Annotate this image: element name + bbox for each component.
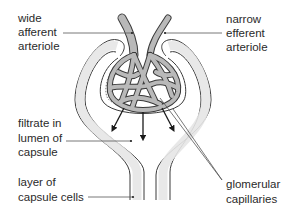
svg-text:capillaries: capillaries — [226, 193, 277, 205]
svg-text:arteriole: arteriole — [226, 41, 268, 53]
nephron-diagram: wide afferent arteriole narrow efferent … — [0, 0, 289, 215]
svg-text:narrow: narrow — [226, 13, 262, 25]
label-afferent-arteriole: wide afferent arteriole — [17, 12, 60, 52]
svg-text:layer of: layer of — [18, 176, 57, 188]
leader-glomerular-1 — [160, 98, 222, 180]
label-glomerular-capillaries: glomerular capillaries — [226, 178, 280, 205]
label-efferent-arteriole: narrow efferent arteriole — [226, 13, 268, 53]
arrow-right — [162, 108, 173, 129]
glomerular-capillaries — [110, 55, 178, 110]
svg-text:filtrate in: filtrate in — [18, 117, 61, 129]
svg-text:efferent: efferent — [226, 27, 266, 39]
svg-text:capsule cells: capsule cells — [18, 191, 84, 203]
svg-text:lumen of: lumen of — [18, 132, 63, 144]
svg-text:capsule: capsule — [18, 146, 58, 158]
svg-text:wide: wide — [17, 12, 42, 24]
filtration-arrows — [113, 108, 173, 138]
arrow-left — [113, 108, 124, 129]
svg-text:arteriole: arteriole — [18, 40, 60, 52]
svg-text:afferent: afferent — [18, 26, 58, 38]
label-capsule-cells: layer of capsule cells — [18, 176, 84, 203]
svg-text:glomerular: glomerular — [226, 178, 280, 190]
efferent-arteriole — [150, 18, 168, 55]
label-filtrate: filtrate in lumen of capsule — [18, 117, 63, 158]
